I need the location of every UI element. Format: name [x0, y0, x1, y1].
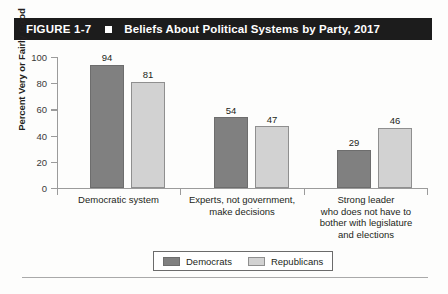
- y-tick-60: [51, 109, 57, 110]
- y-axis-line: [57, 57, 58, 189]
- bar-value-republicans-experts: 47: [254, 114, 290, 125]
- legend-item-republicans: Republicans: [248, 256, 323, 267]
- bar-value-democrats-experts: 54: [213, 105, 249, 116]
- x-category-label-democratic-system: Democratic system: [57, 194, 180, 206]
- bar-democrats-democratic-system: [90, 65, 124, 188]
- x-category-line: make decisions: [175, 206, 309, 218]
- figure-bottom-rule: [22, 277, 428, 278]
- y-axis-title: Percent Very or Fairly Good: [16, 2, 27, 138]
- bar-democrats-experts: [214, 117, 248, 188]
- bar-value-republicans-democratic-system: 81: [130, 69, 166, 80]
- x-category-line: Democratic system: [57, 194, 180, 206]
- chart-legend: Democrats Republicans: [153, 251, 333, 271]
- legend-swatch-republicans-icon: [248, 257, 265, 266]
- y-tick-80: [51, 83, 57, 84]
- y-tick-20: [51, 162, 57, 163]
- y-tick-label-0: 0: [21, 183, 47, 194]
- y-tick-100: [51, 57, 57, 58]
- x-category-line: who does not have to: [304, 206, 428, 218]
- y-tick-label-40: 40: [21, 131, 47, 142]
- x-category-line: bother with legislature: [304, 217, 428, 229]
- bar-republicans-experts: [255, 126, 289, 188]
- legend-item-democrats: Democrats: [163, 256, 232, 267]
- bar-value-democrats-democratic-system: 94: [89, 52, 125, 63]
- x-category-line: Experts, not government,: [175, 194, 309, 206]
- y-tick-40: [51, 136, 57, 137]
- bar-value-democrats-strong-leader: 29: [336, 137, 372, 148]
- y-tick-label-100: 100: [21, 52, 47, 63]
- bar-republicans-democratic-system: [131, 82, 165, 188]
- legend-label-democrats: Democrats: [186, 256, 232, 267]
- x-category-line: and elections: [304, 229, 428, 241]
- bar-value-republicans-strong-leader: 46: [377, 115, 413, 126]
- x-category-line: Strong leader: [304, 194, 428, 206]
- x-category-label-experts: Experts, not government, make decisions: [175, 194, 309, 217]
- bar-republicans-strong-leader: [378, 128, 412, 188]
- bar-democrats-strong-leader: [337, 150, 371, 188]
- y-tick-label-80: 80: [21, 78, 47, 89]
- x-axis-line: [57, 188, 428, 189]
- x-category-label-strong-leader: Strong leader who does not have to bothe…: [304, 194, 428, 240]
- legend-swatch-democrats-icon: [163, 257, 180, 266]
- bar-chart: Percent Very or Fairly Good 100 80 60 40…: [0, 0, 448, 294]
- legend-label-republicans: Republicans: [271, 256, 323, 267]
- y-tick-label-60: 60: [21, 104, 47, 115]
- y-tick-label-20: 20: [21, 157, 47, 168]
